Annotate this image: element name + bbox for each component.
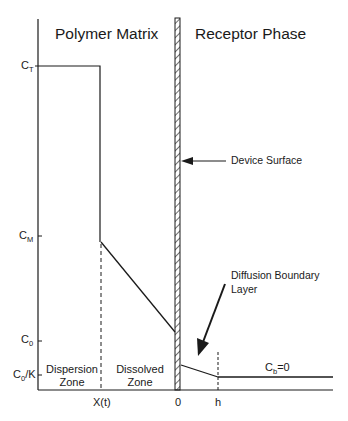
device-surface-label: Device Surface — [231, 155, 302, 166]
diffusion-arrowhead — [197, 338, 209, 356]
diffusion-boundary-label: Diffusion Boundary Layer — [231, 268, 320, 296]
ct-plateau-line — [38, 66, 100, 242]
xt-axis-label: X(t) — [93, 397, 111, 408]
c0-label: C0 — [21, 334, 33, 348]
ct-label: CT — [21, 60, 34, 74]
cb-label: Cb=0 — [265, 362, 290, 376]
polymer-matrix-title: Polymer Matrix — [55, 26, 158, 42]
diffusion-arrow-shaft — [203, 284, 225, 342]
receptor-phase-title: Receptor Phase — [195, 26, 306, 42]
dissolved-zone-label: Dissolved Zone — [112, 363, 168, 389]
c0k-label: C0/K — [13, 369, 36, 383]
dissolved-gradient-line — [101, 242, 175, 332]
h-axis-label: h — [215, 397, 221, 408]
dispersion-zone-label: Dispersion Zone — [44, 363, 100, 389]
cm-label: CM — [19, 230, 33, 244]
device-surface-arrowhead — [181, 157, 193, 165]
device-surface-bar — [175, 18, 180, 390]
concentration-profile-diagram — [0, 0, 348, 421]
boundary-gradient-line — [181, 365, 218, 377]
zero-axis-label: 0 — [175, 397, 181, 408]
